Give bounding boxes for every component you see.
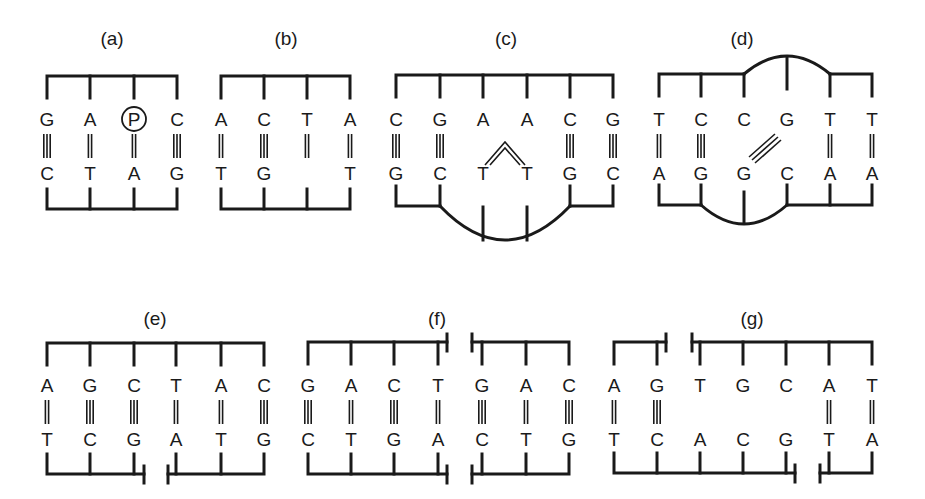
- base-letter: A: [866, 163, 879, 184]
- bottom-backbone: [570, 186, 613, 206]
- bottom-backbone: [396, 186, 440, 206]
- base-letter: T: [344, 163, 356, 184]
- base-letter: G: [606, 109, 621, 130]
- base-letter: T: [84, 163, 96, 184]
- base-letter: C: [606, 163, 620, 184]
- base-letter: C: [562, 375, 576, 396]
- base-letter: C: [737, 109, 751, 130]
- base-letter: G: [737, 163, 752, 184]
- panel-label: (c): [495, 28, 517, 49]
- bottom-backbone-left: [47, 454, 144, 474]
- base-letter: T: [215, 163, 227, 184]
- base-letter: T: [608, 429, 620, 450]
- base-letter: T: [41, 429, 53, 450]
- base-letter: C: [389, 109, 403, 130]
- base-letter: T: [521, 163, 533, 184]
- base-letter: C: [257, 109, 271, 130]
- base-letter: A: [215, 375, 228, 396]
- base-letter: C: [127, 375, 141, 396]
- bulged-backbone-arc: [440, 206, 570, 240]
- base-letter: G: [780, 109, 795, 130]
- top-backbone-right: [692, 342, 872, 364]
- base-letter: T: [345, 429, 357, 450]
- base-letter: G: [257, 163, 272, 184]
- panel-label: (f): [428, 308, 446, 329]
- base-letter: G: [127, 429, 142, 450]
- base-letter: C: [83, 429, 97, 450]
- thymine-dimer-bond: [490, 148, 520, 165]
- base-letter: A: [521, 109, 534, 130]
- base-letter: T: [432, 375, 444, 396]
- top-backbone: [221, 76, 350, 98]
- bottom-backbone-left: [614, 453, 795, 473]
- top-backbone: [830, 74, 872, 96]
- panel-label: (d): [730, 28, 753, 49]
- base-letter: G: [779, 429, 794, 450]
- panel-a: (a) GACCTAGP: [40, 28, 185, 209]
- base-letter: T: [866, 375, 878, 396]
- base-letter: G: [563, 163, 578, 184]
- panel-f: (f) GACTGACCTGACTG: [301, 308, 577, 483]
- base-letter: A: [608, 375, 621, 396]
- panel-label: (g): [740, 308, 763, 329]
- base-letter: A: [866, 429, 879, 450]
- bottom-backbone-right: [472, 454, 569, 474]
- top-backbone: [47, 343, 264, 365]
- figure-canvas: (a) GACCTAGP (b) ACTATGT (c) CGAACGGCTTG…: [0, 0, 925, 499]
- base-letter: G: [301, 375, 316, 396]
- base-letter: G: [650, 375, 665, 396]
- cross-link-bond: [749, 134, 775, 157]
- base-letter: T: [823, 429, 835, 450]
- cross-link-bond: [755, 140, 781, 163]
- base-letter: C: [170, 109, 184, 130]
- base-letter: C: [257, 375, 271, 396]
- base-letter: G: [170, 163, 185, 184]
- base-letter: A: [170, 429, 183, 450]
- base-letter: G: [40, 109, 55, 130]
- base-letter: G: [83, 375, 98, 396]
- bottom-backbone-right: [168, 454, 264, 474]
- base-letter: C: [780, 163, 794, 184]
- base-letter: G: [736, 375, 751, 396]
- bottom-backbone: [47, 189, 177, 209]
- base-letter: T: [170, 375, 182, 396]
- base-letter: G: [433, 109, 448, 130]
- top-backbone: [396, 75, 613, 97]
- base-letter: T: [520, 429, 532, 450]
- bottom-backbone: [659, 185, 701, 205]
- base-letter: T: [866, 109, 878, 130]
- base-letter: G: [562, 429, 577, 450]
- base-letter: C: [40, 163, 54, 184]
- panel-label: (e): [143, 308, 166, 329]
- base-letter: A: [128, 163, 141, 184]
- base-letter: C: [694, 109, 708, 130]
- panel-e: (e) AGCTACTCGATG: [41, 308, 272, 483]
- base-letter: T: [215, 429, 227, 450]
- base-letter: G: [257, 429, 272, 450]
- panel-c: (c) CGAACGGCTTGC: [389, 28, 621, 240]
- panel-label: (b): [274, 28, 297, 49]
- panel-g: (g) AGTGCATTCACGTA: [608, 308, 879, 482]
- base-letter: C: [475, 429, 489, 450]
- base-letter: T: [824, 109, 836, 130]
- base-letter: A: [694, 429, 707, 450]
- dna-damage-figure: (a) GACCTAGP (b) ACTATGT (c) CGAACGGCTTG…: [0, 0, 925, 499]
- base-letter: T: [477, 163, 489, 184]
- base-letter: C: [433, 163, 447, 184]
- base-letter: A: [432, 429, 445, 450]
- base-letter: C: [563, 109, 577, 130]
- top-backbone-left: [308, 342, 447, 364]
- base-letter: A: [344, 109, 357, 130]
- base-letter: G: [475, 375, 490, 396]
- base-letter: A: [653, 163, 666, 184]
- base-letter: T: [653, 109, 665, 130]
- base-letter: A: [41, 375, 54, 396]
- base-letter: C: [779, 375, 793, 396]
- base-letter: A: [823, 375, 836, 396]
- base-letter: A: [477, 109, 490, 130]
- modified-base-p: P: [128, 109, 141, 130]
- base-letter: T: [301, 109, 313, 130]
- base-letter: A: [345, 375, 358, 396]
- base-letter: G: [694, 163, 709, 184]
- base-letter: G: [389, 163, 404, 184]
